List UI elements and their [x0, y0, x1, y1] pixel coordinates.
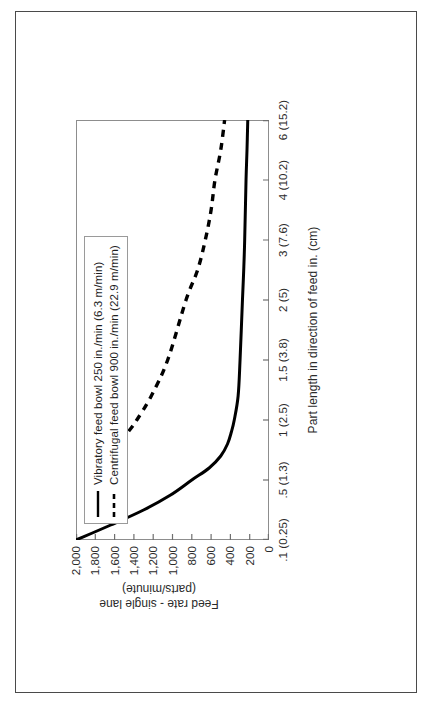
x-tick-label-4: 2 (5) [277, 288, 289, 312]
x-tick-label-2: 1 (2.5) [277, 403, 289, 437]
legend: Vibratory feed bowl 250 in./min (6.3 m/m… [84, 236, 128, 524]
y-tick-label-8: 1,600 [109, 546, 121, 586]
x-tick-label-6: 4 (10.2) [277, 160, 289, 200]
y-axis-title-line1: Feed rate - single lane [59, 596, 259, 611]
y-tick-label-4: 800 [186, 546, 198, 586]
rotated-figure-wrapper: .1 (0.25).5 (1.3)1 (2.5)1.5 (3.8)2 (5)3 … [66, 72, 366, 632]
y-tick-label-6: 1,200 [147, 546, 159, 586]
y-tick-label-5: 1,000 [167, 546, 179, 586]
legend-dashed-line-icon [109, 491, 119, 517]
y-tick-label-1: 200 [244, 546, 256, 586]
legend-item-vibratory: Vibratory feed bowl 250 in./min (6.3 m/m… [90, 245, 106, 517]
x-axis-title: Part length in direction of feed in. (cm… [306, 120, 320, 540]
legend-solid-line-icon [93, 491, 103, 517]
legend-label-vibratory: Vibratory feed bowl 250 in./min (6.3 m/m… [92, 262, 104, 485]
y-axis-title: Feed rate - single lane (parts/minute) [59, 581, 259, 611]
x-tick-label-5: 3 (7.6) [277, 223, 289, 257]
legend-item-centrifugal: Centrifugal feed bowl 900 in./min (22.9 … [106, 245, 122, 517]
y-tick-label-10: 2,000 [70, 546, 82, 586]
x-tick-label-1: .5 (1.3) [277, 461, 289, 498]
x-tick-label-3: 1.5 (3.8) [277, 338, 289, 382]
x-tick-label-7: 6 (15.2) [277, 100, 289, 140]
chart-figure: .1 (0.25).5 (1.3)1 (2.5)1.5 (3.8)2 (5)3 … [66, 72, 366, 632]
y-tick-label-0: 0 [263, 546, 275, 586]
page-border: .1 (0.25).5 (1.3)1 (2.5)1.5 (3.8)2 (5)3 … [15, 11, 417, 693]
y-tick-label-3: 600 [205, 546, 217, 586]
x-tick-label-0: .1 (0.25) [277, 518, 289, 562]
y-axis-title-line2: (parts/minute) [59, 581, 259, 596]
y-tick-label-9: 1,800 [89, 546, 101, 586]
y-tick-label-7: 1,400 [128, 546, 140, 586]
legend-label-centrifugal: Centrifugal feed bowl 900 in./min (22.9 … [108, 245, 120, 485]
y-tick-label-2: 400 [224, 546, 236, 586]
